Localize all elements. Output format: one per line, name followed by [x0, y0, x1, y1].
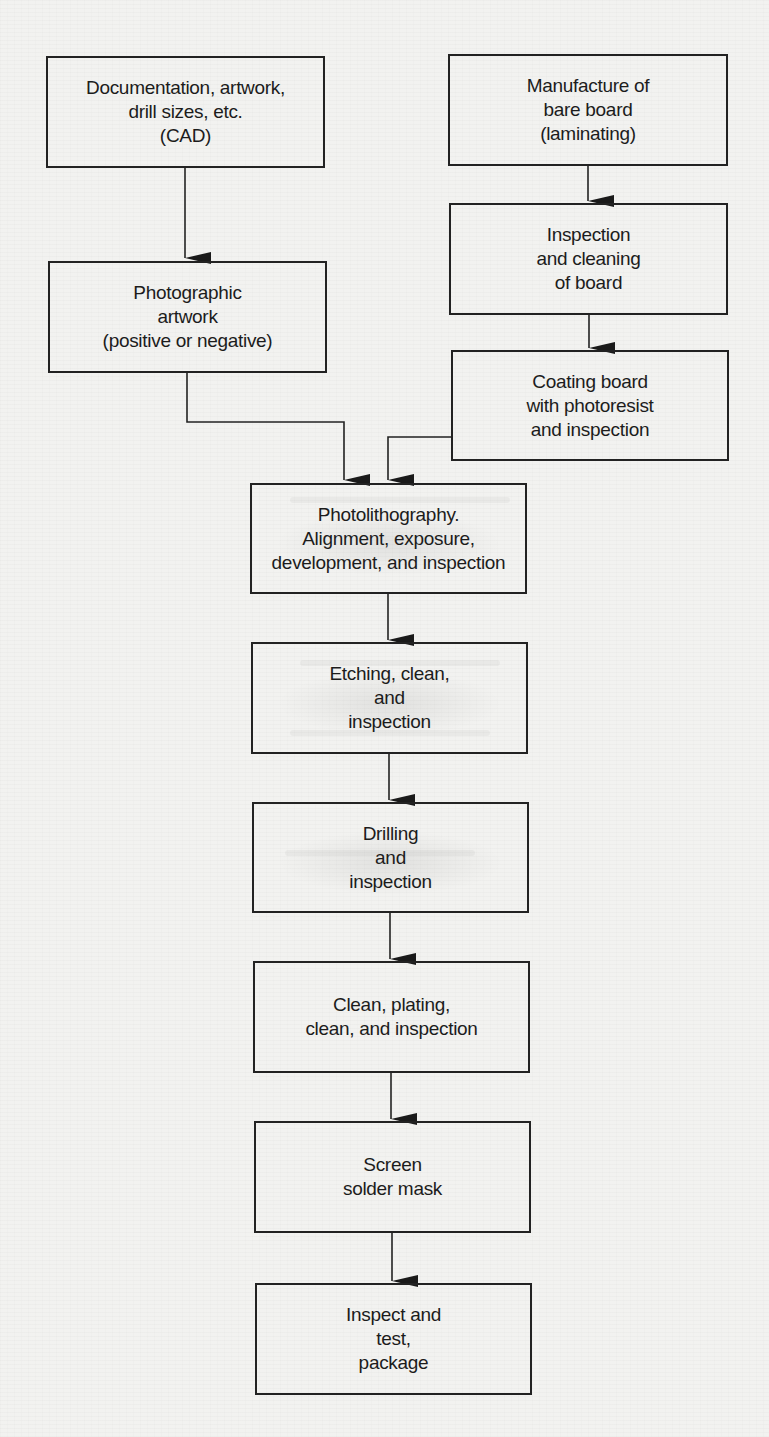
node-clean-plating: Clean, plating, clean, and inspection	[253, 961, 530, 1073]
node-cad-documentation: Documentation, artwork, drill sizes, etc…	[46, 56, 325, 168]
node-label: Clean, plating, clean, and inspection	[305, 993, 477, 1041]
node-label: Documentation, artwork, drill sizes, etc…	[86, 76, 285, 148]
node-etching: Etching, clean, and inspection	[251, 642, 528, 754]
edge-coating-to-photolithography	[388, 437, 451, 480]
node-screen-solder-mask: Screen solder mask	[254, 1121, 531, 1233]
node-label: Photographic artwork (positive or negati…	[103, 281, 273, 353]
node-label: Drilling and inspection	[349, 822, 432, 894]
node-drilling: Drilling and inspection	[252, 802, 529, 913]
node-label: Etching, clean, and inspection	[329, 662, 449, 734]
node-label: Photolithography. Alignment, exposure, d…	[272, 503, 506, 575]
node-photographic-artwork: Photographic artwork (positive or negati…	[48, 261, 327, 373]
edge-photo-artwork-to-photolithography	[187, 372, 344, 480]
node-label: Screen solder mask	[343, 1153, 442, 1201]
node-label: Manufacture of bare board (laminating)	[527, 74, 650, 146]
node-inspect-test-package: Inspect and test, package	[255, 1283, 532, 1395]
node-photolithography: Photolithography. Alignment, exposure, d…	[250, 483, 527, 594]
node-inspection-and-cleaning: Inspection and cleaning of board	[449, 203, 728, 315]
node-bare-board-manufacture: Manufacture of bare board (laminating)	[448, 54, 728, 166]
node-label: Inspection and cleaning of board	[536, 223, 640, 295]
node-coating-photoresist: Coating board with photoresist and inspe…	[451, 350, 729, 461]
node-label: Coating board with photoresist and inspe…	[526, 370, 653, 442]
node-label: Inspect and test, package	[346, 1303, 441, 1375]
